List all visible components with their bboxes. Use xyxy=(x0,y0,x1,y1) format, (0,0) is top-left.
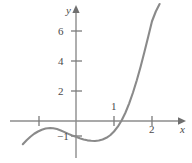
y-tick-label-neg1: −1 xyxy=(57,131,69,142)
y-axis-arrow-icon xyxy=(72,5,79,13)
function-curve xyxy=(23,4,160,144)
x-tick-label-1: 1 xyxy=(111,101,117,112)
y-tick-label-6: 6 xyxy=(58,26,64,37)
y-tick-label-4: 4 xyxy=(58,56,64,67)
graph-figure: 6 4 2 −1 1 2 y x xyxy=(0,0,192,163)
y-axis-label: y xyxy=(66,5,71,16)
coordinate-plot xyxy=(0,0,192,163)
y-tick-label-2: 2 xyxy=(58,86,64,97)
x-axis-label: x xyxy=(180,124,185,135)
x-tick-label-2: 2 xyxy=(149,124,155,135)
